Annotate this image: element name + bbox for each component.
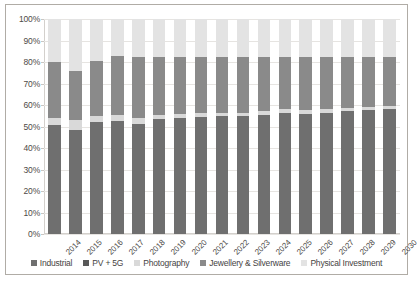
x-axis-tick-label: 2030 bbox=[400, 238, 418, 257]
bar-segment bbox=[132, 124, 145, 234]
bar-stack bbox=[69, 19, 82, 234]
x-axis-tick-label: 2026 bbox=[316, 238, 335, 257]
bar-segment bbox=[90, 19, 103, 61]
bar-segment bbox=[320, 19, 333, 57]
chart-legend: IndustrialPV + 5GPhotographyJewellery & … bbox=[6, 258, 407, 268]
bar-segment bbox=[258, 19, 271, 57]
y-axis-tick-label: 70% bbox=[24, 79, 40, 89]
bar-segment bbox=[362, 19, 375, 57]
x-axis-tick-label: 2017 bbox=[127, 238, 146, 257]
plot-area: 100%90%80%70%60%50%40%30%20%10%0% 201420… bbox=[44, 19, 400, 234]
bar-stack bbox=[90, 19, 103, 234]
x-axis-tick-label: 2027 bbox=[337, 238, 356, 257]
x-axis-tick-label: 2022 bbox=[232, 238, 251, 257]
bar-segment bbox=[195, 19, 208, 57]
y-axis-tick-label: 40% bbox=[24, 143, 40, 153]
y-axis-tick-mark bbox=[41, 234, 44, 235]
bar-segment bbox=[383, 109, 396, 234]
bar-segment bbox=[320, 57, 333, 110]
bar-segment bbox=[258, 115, 271, 234]
bar-stack bbox=[111, 19, 124, 234]
bar-segment bbox=[174, 118, 187, 234]
bar-segment bbox=[341, 111, 354, 234]
bar-segment bbox=[195, 113, 208, 117]
y-axis-tick-mark bbox=[41, 148, 44, 149]
x-axis-tick-label: 2014 bbox=[65, 238, 84, 257]
bar-segment bbox=[69, 120, 82, 130]
bar-stack bbox=[362, 19, 375, 234]
legend-swatch-icon bbox=[134, 260, 140, 266]
chart-frame: 100%90%80%70%60%50%40%30%20%10%0% 201420… bbox=[5, 4, 408, 275]
bar-segment bbox=[69, 130, 82, 234]
bar-segment bbox=[174, 57, 187, 114]
bar-segment bbox=[132, 118, 145, 124]
bar-segment bbox=[111, 56, 124, 115]
bar-segment bbox=[341, 19, 354, 57]
legend-item[interactable]: Jewellery & Silverware bbox=[200, 258, 290, 268]
bar-stack bbox=[153, 19, 166, 234]
bar-stack bbox=[299, 19, 312, 234]
legend-swatch-icon bbox=[301, 260, 307, 266]
bar-segment bbox=[383, 106, 396, 109]
bar-segment bbox=[48, 62, 61, 118]
legend-item-label: Jewellery & Silverware bbox=[209, 258, 290, 268]
bar-segment bbox=[111, 115, 124, 121]
bar-segment bbox=[48, 118, 61, 126]
bar-segment bbox=[258, 57, 271, 112]
bar-segment bbox=[90, 122, 103, 234]
bar-stack bbox=[132, 19, 145, 234]
bar-stack bbox=[237, 19, 250, 234]
gridline bbox=[44, 234, 400, 235]
bar-segment bbox=[48, 125, 61, 234]
bar-segment bbox=[362, 57, 375, 108]
legend-item[interactable]: Photography bbox=[134, 258, 189, 268]
bar-segment bbox=[90, 116, 103, 122]
bar-segment bbox=[153, 57, 166, 115]
bar-segment bbox=[195, 57, 208, 113]
bar-segment bbox=[320, 109, 333, 112]
legend-item[interactable]: Industrial bbox=[31, 258, 73, 268]
y-axis-tick-label: 60% bbox=[24, 100, 40, 110]
bar-segment bbox=[69, 71, 82, 120]
x-axis-tick-label: 2019 bbox=[169, 238, 188, 257]
bar-segment bbox=[362, 110, 375, 234]
bar-segment bbox=[174, 114, 187, 118]
bar-stack bbox=[48, 19, 61, 234]
y-axis-tick-mark bbox=[41, 62, 44, 63]
bar-segment bbox=[237, 19, 250, 57]
legend-swatch-icon bbox=[31, 260, 37, 266]
bar-segment bbox=[237, 116, 250, 234]
y-axis-tick-mark bbox=[41, 191, 44, 192]
bar-stack bbox=[174, 19, 187, 234]
legend-item-label: Photography bbox=[143, 258, 189, 268]
legend-swatch-icon bbox=[200, 260, 206, 266]
x-axis-tick-label: 2015 bbox=[86, 238, 105, 257]
bar-segment bbox=[174, 19, 187, 57]
bar-segment bbox=[195, 117, 208, 234]
bar-stack bbox=[320, 19, 333, 234]
y-axis-tick-label: 0% bbox=[28, 229, 40, 239]
bar-segment bbox=[90, 61, 103, 116]
y-axis-tick-label: 50% bbox=[24, 122, 40, 132]
bar-segment bbox=[216, 113, 229, 116]
legend-item[interactable]: Physical Investment bbox=[301, 258, 382, 268]
x-axis-tick-label: 2020 bbox=[190, 238, 209, 257]
bar-segment bbox=[279, 19, 292, 57]
x-axis-tick-label: 2023 bbox=[253, 238, 272, 257]
y-axis-tick-label: 30% bbox=[24, 165, 40, 175]
bar-segment bbox=[279, 113, 292, 234]
y-axis-tick-mark bbox=[41, 41, 44, 42]
bar-segment bbox=[299, 114, 312, 234]
bar-segment bbox=[341, 57, 354, 109]
y-axis-tick-label: 100% bbox=[19, 14, 40, 24]
bar-stack bbox=[279, 19, 292, 234]
legend-item[interactable]: PV + 5G bbox=[83, 258, 123, 268]
x-axis-tick-label: 2028 bbox=[358, 238, 377, 257]
bar-stack bbox=[383, 19, 396, 234]
x-axis-tick-label: 2025 bbox=[295, 238, 314, 257]
bar-segment bbox=[153, 119, 166, 234]
bar-segment bbox=[279, 109, 292, 112]
legend-item-label: Physical Investment bbox=[310, 258, 382, 268]
x-axis-tick-label: 2016 bbox=[106, 238, 125, 257]
bar-segment bbox=[299, 57, 312, 111]
